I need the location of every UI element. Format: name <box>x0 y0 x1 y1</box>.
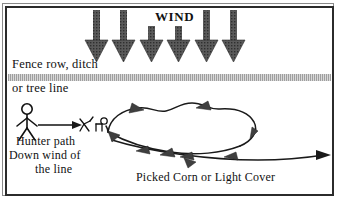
hunter-path-label-line3: the line <box>35 162 72 177</box>
fence-row-label-line1: Fence row, ditch <box>12 57 98 72</box>
hunter-path-label-line2: Down wind of <box>9 148 81 163</box>
cover-type-label: Picked Corn or Light Cover <box>136 170 275 185</box>
hunter-path-label-line1: Hunter path <box>16 134 75 149</box>
fence-row-label-line2: or tree line <box>12 81 69 96</box>
wind-label: WIND <box>155 9 194 25</box>
fence-row-band <box>8 74 331 81</box>
field-texture-upper <box>61 92 331 150</box>
diagram-canvas: WIND Fence row, ditch or tree line Hunte… <box>0 0 341 202</box>
